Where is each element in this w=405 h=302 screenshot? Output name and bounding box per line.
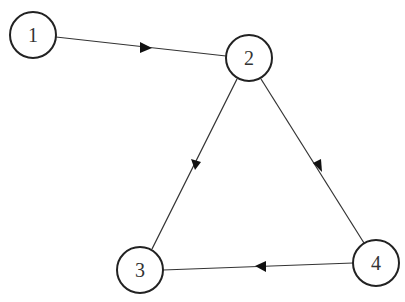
edge-4-3 <box>163 261 353 272</box>
arrow-icon <box>140 42 152 53</box>
node-3: 3 <box>117 247 163 293</box>
edge-2-4 <box>261 79 364 243</box>
node-label: 4 <box>371 252 381 274</box>
node-label: 2 <box>244 47 254 69</box>
arrow-icon <box>255 261 266 272</box>
node-2: 2 <box>226 35 272 81</box>
node-label: 3 <box>135 259 145 281</box>
node-label: 1 <box>28 24 38 46</box>
directed-graph: 1 2 3 4 <box>0 0 405 302</box>
edge-1-2 <box>56 37 226 56</box>
node-4: 4 <box>353 240 399 286</box>
edge-2-3 <box>152 79 237 249</box>
node-1: 1 <box>10 12 56 58</box>
